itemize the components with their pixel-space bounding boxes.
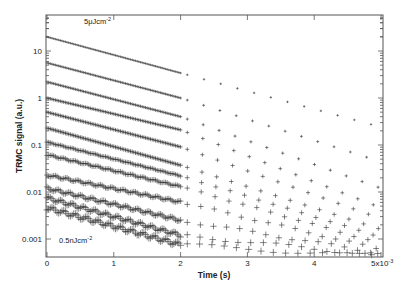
y-tick-label: 0.01 [26, 188, 42, 197]
x-tick-label: 5x10-3 [371, 258, 393, 268]
y-axis-label: TRMC signal (a.u.) [14, 99, 24, 173]
x-tick-label: 1 [112, 259, 117, 268]
y-tick-label: 1 [38, 94, 43, 103]
plus-markers [44, 36, 382, 259]
annotation-high-intensity: 5μJcm-2 [84, 16, 111, 26]
x-axis-label: Time (s) [198, 270, 231, 280]
y-tick-label: 0.1 [31, 141, 43, 150]
x-tick-label: 3 [245, 259, 250, 268]
y-axis-ticks: 1010.10.010.001 [22, 18, 383, 244]
x-tick-label: 4 [312, 259, 317, 268]
y-tick-label: 10 [33, 47, 42, 56]
trmc-decay-chart: 1010.10.010.001 012345x10-3 5μJcm-2 0.5n… [0, 0, 397, 293]
annotation-low-intensity: 0.5nJcm-2 [59, 235, 92, 245]
y-tick-label: 0.001 [22, 235, 43, 244]
x-tick-label: 0 [45, 259, 50, 268]
x-tick-label: 2 [178, 259, 183, 268]
data-markers [44, 36, 382, 259]
